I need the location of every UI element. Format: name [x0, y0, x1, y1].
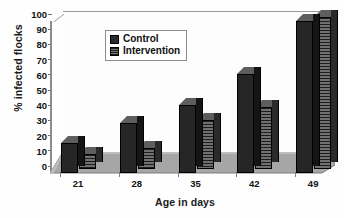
y-tick-100: 100	[21, 11, 47, 19]
bar-side	[196, 98, 203, 166]
y-tick-30: 30	[21, 117, 47, 125]
legend: ControlIntervention	[105, 30, 187, 61]
bar-side	[155, 141, 162, 162]
bar-side	[78, 136, 85, 166]
y-tick-70: 70	[21, 57, 47, 65]
bar-face	[296, 21, 313, 173]
bar-side	[137, 116, 144, 166]
bar-side	[214, 113, 221, 162]
bar-side	[331, 10, 338, 162]
legend-item-control: Control	[110, 33, 180, 45]
y-tick-40: 40	[21, 102, 47, 110]
y-tick-10: 10	[21, 148, 47, 156]
y-tick-90: 90	[21, 26, 47, 34]
x-tick-42: 42	[237, 178, 271, 189]
bar-21-control	[61, 136, 78, 173]
y-tick-60: 60	[21, 72, 47, 80]
bar-side	[96, 147, 103, 162]
bar-chart: % infected flocks 0102030405060708090100…	[0, 0, 344, 218]
bar-face	[61, 143, 78, 173]
bar-35-control	[179, 98, 196, 173]
legend-swatch-icon	[110, 47, 119, 56]
legend-label: Intervention	[123, 45, 180, 57]
bar-side	[254, 67, 261, 166]
y-axis-tick-labels: 0102030405060708090100	[21, 10, 47, 170]
bar-side	[313, 14, 320, 166]
bar-side	[272, 100, 279, 162]
bars-area	[50, 21, 335, 173]
bar-top	[120, 116, 137, 123]
y-tick-80: 80	[21, 41, 47, 49]
y-tick-0: 0	[21, 163, 47, 171]
bar-top	[237, 67, 254, 74]
y-tick-20: 20	[21, 133, 47, 141]
bar-top	[179, 98, 196, 105]
bar-28-control	[120, 116, 137, 173]
bar-face	[179, 105, 196, 173]
x-axis-tick-labels: 2128354249	[50, 178, 340, 192]
bar-face	[237, 74, 254, 173]
bar-top	[296, 14, 313, 21]
x-tick-21: 21	[61, 178, 95, 189]
x-tick-35: 35	[179, 178, 213, 189]
x-tick-49: 49	[296, 178, 330, 189]
legend-item-intervention: Intervention	[110, 45, 180, 57]
x-axis-title: Age in days	[60, 196, 310, 208]
bar-42-control	[237, 67, 254, 173]
x-tick-28: 28	[120, 178, 154, 189]
legend-swatch-icon	[110, 35, 119, 44]
bar-49-control	[296, 14, 313, 173]
legend-label: Control	[123, 33, 159, 45]
bar-face	[120, 123, 137, 173]
bar-top	[61, 136, 78, 143]
y-tick-50: 50	[21, 87, 47, 95]
